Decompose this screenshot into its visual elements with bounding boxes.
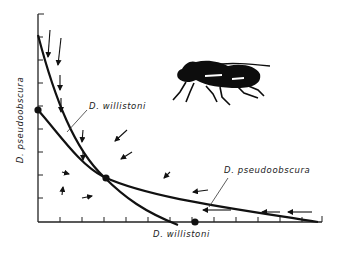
y-axis-label: D. pseudoobscura: [15, 77, 25, 163]
arrow-icon: [193, 190, 208, 192]
pseudoobscura-leader-line: [209, 178, 228, 207]
arrow-icon: [82, 196, 92, 198]
arrow-icon: [58, 38, 61, 65]
axes: [38, 14, 322, 222]
equilibrium-points: [34, 106, 198, 225]
equilibrium-dot: [191, 218, 198, 225]
willistoni-leader-line: [67, 110, 87, 132]
competition-phase-diagram: [0, 0, 343, 255]
equilibrium-dot: [102, 174, 109, 181]
equilibrium-dot: [34, 106, 41, 113]
x-axis-label: D. willistoni: [153, 229, 210, 239]
pseudoobscura-isocline-label: D. pseudoobscura: [224, 165, 310, 175]
arrow-icon: [62, 172, 69, 174]
willistoni-isocline-label: D. willistoni: [89, 101, 146, 111]
fly-illustration-icon: [173, 61, 270, 105]
arrow-icon: [48, 30, 50, 57]
arrow-icon: [121, 152, 132, 159]
trajectory-arrows: [48, 30, 312, 212]
arrow-icon: [115, 130, 127, 141]
arrow-icon: [62, 187, 63, 195]
arrow-icon: [164, 172, 170, 178]
willistoni-isocline: [38, 35, 178, 225]
arrow-icon: [82, 130, 83, 142]
